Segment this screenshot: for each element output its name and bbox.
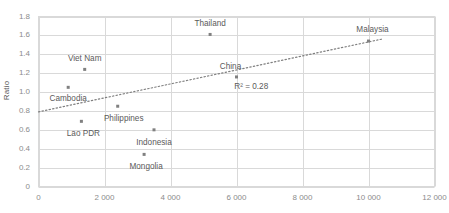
y-tick-label: 0.2 [4,163,30,172]
y-tick-label: 0.4 [4,144,30,153]
data-point-label: Viet Nam [25,54,145,63]
data-point-label: Indonesia [94,138,214,147]
data-point-marker [209,33,212,36]
y-tick-label: 1.8 [4,12,30,21]
data-point-marker [116,105,119,108]
data-point-label: Cambodia [8,94,128,103]
data-point-marker [153,128,156,131]
x-tick-label: 8 000 [280,193,326,202]
data-point-label: Malaysia [313,25,433,34]
y-tick-label: 1.2 [4,68,30,77]
y-tick-label: 0.8 [4,106,30,115]
data-point-marker [367,40,370,43]
data-point-marker [67,86,70,89]
data-point-label: Mongolia [86,162,206,171]
x-tick-label: 10 000 [346,193,392,202]
data-point-label: China [171,62,291,71]
data-point-marker [235,75,238,78]
scatter-chart: Ratio 00.20.40.60.81.01.21.41.61.8 02 00… [0,0,449,213]
y-tick-label: 1.6 [4,30,30,39]
data-point-marker [143,153,146,156]
x-tick-label: 6 000 [214,193,260,202]
x-tick-label: 12 000 [412,193,449,202]
data-point-label: Philippines [64,114,184,123]
data-point-marker [83,68,86,71]
r-squared-annotation: R² = 0.28 [234,82,268,91]
x-tick-label: 0 [16,193,62,202]
data-point-label: Thailand [150,19,270,28]
x-tick-label: 4 000 [148,193,194,202]
y-tick-label: 0 [4,182,30,191]
x-tick-label: 2 000 [82,193,128,202]
